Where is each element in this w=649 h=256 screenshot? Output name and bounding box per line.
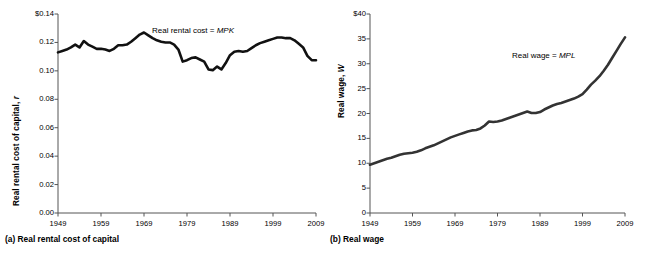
y-tick-label: 35	[322, 34, 366, 43]
y-tick-label: 30	[322, 59, 366, 68]
panel-a-axes	[55, 14, 317, 217]
x-tick-label: 1949	[40, 219, 76, 228]
y-tick-label: 0.00	[10, 208, 54, 217]
chart-panel-a: Real rental cost of capital, r 0.000.020…	[0, 0, 324, 256]
y-tick-label: 0.08	[10, 94, 54, 103]
x-tick-label: 1979	[480, 219, 516, 228]
y-tick-label: 20	[322, 109, 366, 118]
panel-b-plot-area	[325, 0, 649, 232]
panel-a-caption: (a) Real rental cost of capital	[5, 234, 119, 244]
x-tick-label: 1999	[255, 219, 291, 228]
figure-real-factor-prices: Real rental cost of capital, r 0.000.020…	[0, 0, 649, 256]
panel-b-caption: (b) Real wage	[330, 234, 384, 244]
y-tick-label: 25	[322, 84, 366, 93]
y-tick-label: 0.06	[10, 123, 54, 132]
y-tick-label: 0.04	[10, 151, 54, 160]
panel-b-axes	[367, 14, 626, 217]
y-tick-label: 0.02	[10, 180, 54, 189]
y-tick-label: $40	[322, 9, 366, 18]
panel-a-annotation: Real rental cost = MPK	[152, 26, 234, 35]
y-tick-label: $0.14	[10, 9, 54, 18]
y-tick-label: 0.12	[10, 37, 54, 46]
x-tick-label: 1979	[169, 219, 205, 228]
chart-panel-b: Real wage, W 05101520253035$40 194919591…	[325, 0, 649, 256]
panel-b-data-line	[370, 37, 625, 164]
x-tick-label: 1989	[522, 219, 558, 228]
x-tick-label: 1969	[126, 219, 162, 228]
y-tick-label: 5	[322, 183, 366, 192]
x-tick-label: 1989	[212, 219, 248, 228]
x-tick-label: 1949	[352, 219, 388, 228]
y-tick-label: 10	[322, 158, 366, 167]
y-tick-label: 0	[322, 208, 366, 217]
x-tick-label: 1959	[83, 219, 119, 228]
x-tick-label: 1959	[395, 219, 431, 228]
y-tick-label: 15	[322, 133, 366, 142]
y-tick-label: 0.10	[10, 66, 54, 75]
x-tick-label: 1969	[437, 219, 473, 228]
x-tick-label: 2009	[607, 219, 643, 228]
panel-a-data-line	[58, 32, 316, 70]
x-tick-label: 1999	[565, 219, 601, 228]
panel-b-annotation: Real wage = MPL	[512, 51, 575, 60]
